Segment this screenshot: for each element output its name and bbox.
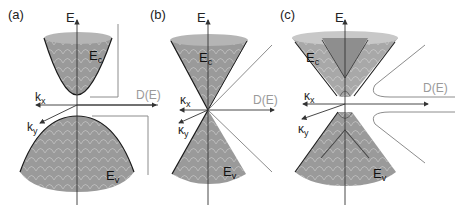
kx-label-a: kx [35, 90, 46, 106]
energy-axis-label-b: E [197, 10, 206, 25]
panel-label-c: (c) [280, 7, 295, 22]
energy-axis-label-c: E [335, 10, 344, 25]
ky-label-b: κy [178, 123, 189, 139]
energy-axis-label-a: E [66, 10, 75, 25]
panel-b [170, 20, 274, 205]
panel-label-b: (b) [150, 7, 166, 22]
dos-label-c: D(E) [423, 81, 448, 95]
kx-label-c: κx [304, 89, 315, 105]
ky-label-c: κy [298, 122, 309, 138]
dos-curve-c-lower [373, 112, 455, 163]
kx-label-b: κx [180, 93, 191, 109]
ky-label-a: ky [27, 120, 38, 136]
dos-label-b: D(E) [253, 93, 278, 107]
band-structure-figure: (a) E Ec Ev kx ky D(E) (b) E Ec Ev κx κy… [0, 0, 471, 217]
dos-label-a: D(E) [136, 88, 161, 102]
panel-label-a: (a) [8, 7, 24, 22]
